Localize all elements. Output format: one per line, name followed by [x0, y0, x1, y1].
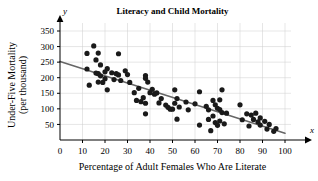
chart-title: Literacy and Child Mortality	[116, 6, 229, 16]
data-point	[116, 72, 121, 77]
data-point	[118, 78, 123, 83]
data-point	[219, 87, 224, 92]
data-point	[132, 90, 137, 95]
data-point	[96, 51, 101, 56]
y-tick-label: 250	[41, 57, 55, 67]
data-point	[273, 126, 278, 131]
data-point	[96, 79, 101, 84]
data-point	[87, 83, 92, 88]
data-point	[98, 62, 103, 67]
x-tick-label: 40	[146, 146, 156, 156]
data-point	[267, 122, 272, 127]
chart-figure: 0102030405060708090100501001502002503003…	[0, 0, 318, 181]
data-point	[222, 121, 227, 126]
data-point	[177, 104, 182, 109]
data-point	[251, 117, 256, 122]
data-point	[197, 122, 202, 127]
data-point	[102, 76, 107, 81]
y-tick-label: 100	[41, 104, 55, 114]
data-point	[91, 43, 96, 48]
data-point	[154, 90, 159, 95]
data-point	[105, 66, 110, 71]
data-point	[145, 79, 150, 84]
x-tick-label: 60	[191, 146, 201, 156]
data-point	[264, 127, 269, 132]
x-tick-label: 20	[101, 146, 111, 156]
data-point	[197, 89, 202, 94]
data-point	[172, 87, 177, 92]
data-point	[262, 119, 267, 124]
data-point	[93, 57, 98, 62]
data-point	[109, 70, 114, 75]
scatter-plot-svg: 0102030405060708090100501001502002503003…	[0, 0, 318, 181]
data-point	[105, 87, 110, 92]
x-tick-label: 0	[58, 146, 63, 156]
data-point	[237, 102, 242, 107]
y-tick-label: 50	[45, 120, 55, 130]
x-tick-label: 10	[78, 146, 88, 156]
data-point	[174, 96, 179, 101]
data-point	[258, 122, 263, 127]
y-tick-label: 200	[41, 73, 55, 83]
data-point	[183, 99, 188, 104]
data-point	[186, 107, 191, 112]
data-point	[150, 87, 155, 92]
data-point	[210, 113, 215, 118]
data-point	[125, 72, 130, 77]
y-tick-label: 150	[41, 88, 55, 98]
y-axis-title-line1: Under-Five Mortality	[6, 42, 17, 128]
x-tick-label: 90	[258, 146, 268, 156]
y-tick-label: 350	[41, 26, 55, 36]
data-point	[258, 115, 263, 120]
data-point	[159, 96, 164, 101]
x-tick-label: 30	[123, 146, 133, 156]
data-point	[224, 111, 229, 116]
y-axis-letter: y	[62, 6, 67, 16]
data-point	[170, 107, 175, 112]
data-point	[240, 117, 245, 122]
y-tick-label: 300	[41, 42, 55, 52]
data-point	[174, 117, 179, 122]
data-point	[127, 80, 132, 85]
data-point	[98, 73, 103, 78]
data-point	[219, 110, 224, 115]
data-point	[172, 101, 177, 106]
data-point	[246, 123, 251, 128]
x-tick-label: 100	[278, 146, 292, 156]
data-point	[206, 117, 211, 122]
x-tick-label: 50	[168, 146, 178, 156]
data-point	[244, 111, 249, 116]
y-axis-title-line2: (per thousand)	[17, 56, 29, 114]
data-point	[192, 101, 197, 106]
data-point	[141, 95, 146, 100]
data-point	[136, 86, 141, 91]
data-point	[253, 111, 258, 116]
data-point	[217, 97, 222, 102]
data-point	[143, 101, 148, 106]
data-point	[84, 66, 89, 71]
data-point	[143, 111, 148, 116]
data-point	[84, 51, 89, 56]
data-point	[208, 128, 213, 133]
x-axis-letter: x	[309, 125, 314, 135]
data-point	[217, 118, 222, 123]
data-point	[111, 77, 116, 82]
data-point	[116, 51, 121, 56]
x-tick-label: 80	[236, 146, 246, 156]
data-point	[206, 107, 211, 112]
x-axis-title: Percentage of Adult Females Who Are Lite…	[79, 161, 267, 172]
data-point	[134, 98, 139, 103]
x-tick-label: 70	[213, 146, 223, 156]
